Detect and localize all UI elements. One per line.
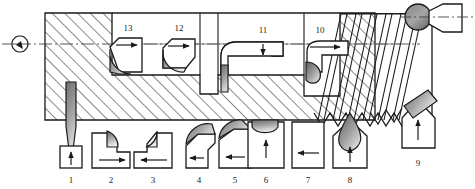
tool-7-holder: [292, 122, 324, 168]
workpiece-section: [45, 13, 375, 120]
ball-end-shank: [400, 4, 475, 32]
tool-2-insert: [107, 131, 118, 147]
tool-9-label: 9: [416, 158, 421, 168]
tool-3-label: 3: [151, 175, 156, 185]
tool-11-insert: [221, 65, 228, 92]
tool-5-label: 5: [233, 175, 238, 185]
tool-11-bar: [221, 42, 283, 74]
tool-12-label: 12: [175, 23, 184, 33]
tool-5[interactable]: 5: [219, 120, 251, 185]
tool-4[interactable]: 4: [186, 124, 215, 185]
tool-13[interactable]: 13: [110, 23, 142, 74]
tool-3[interactable]: 3: [134, 131, 172, 185]
tool-6[interactable]: 6: [248, 120, 284, 185]
machining-sequence-drawing: 1 2 3 4 5 6 7: [0, 0, 475, 189]
tool-13-label: 13: [124, 23, 134, 33]
tool-3-holder: [134, 133, 172, 168]
tool-7-label: 7: [306, 175, 311, 185]
tool-9[interactable]: 9: [402, 90, 437, 168]
tool-10-label: 10: [316, 25, 326, 35]
tool-12[interactable]: 12: [163, 23, 195, 72]
diagram-canvas: 1 2 3 4 5 6 7: [0, 0, 475, 189]
tool-8-label: 8: [348, 175, 353, 185]
tool-8[interactable]: 8: [333, 113, 367, 185]
tool-12-bar: [163, 39, 195, 68]
tool-4-label: 4: [197, 175, 202, 185]
tool-6-insert: [252, 120, 278, 133]
tool-2[interactable]: 2: [92, 131, 130, 185]
tool-2-label: 2: [109, 175, 114, 185]
tool-6-label: 6: [264, 175, 269, 185]
tool-7[interactable]: 7: [292, 122, 324, 185]
tool-1-label: 1: [69, 175, 74, 185]
tool-11-label: 11: [259, 25, 268, 35]
